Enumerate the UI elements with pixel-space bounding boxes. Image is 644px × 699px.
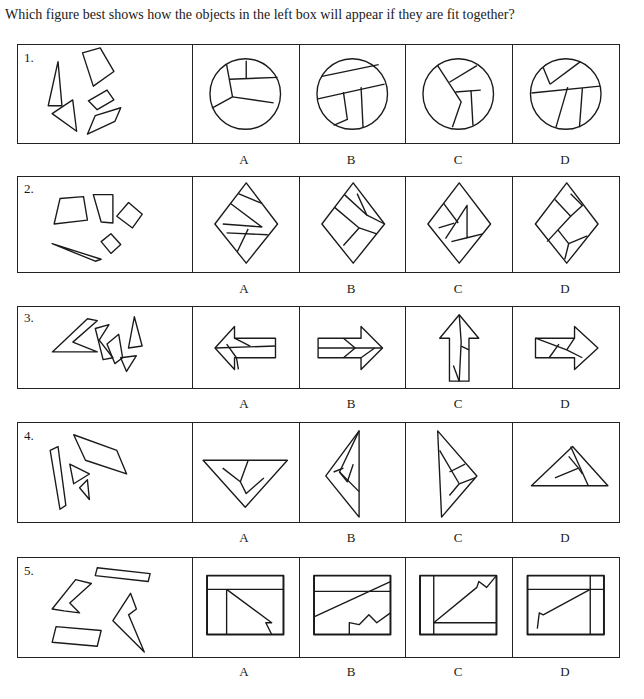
option-label: D [555,152,575,168]
option-b[interactable] [300,423,406,522]
question-prompt: Which figure best shows how the objects … [5,7,515,23]
option-figure [193,558,298,657]
option-label: B [341,152,361,168]
option-label: C [448,396,468,412]
item-row-1 [17,44,620,144]
option-label: B [341,530,361,546]
item-row-4 [17,422,620,523]
option-label: C [448,664,468,680]
pieces-box [18,423,193,522]
option-figure [193,423,298,522]
option-label: B [341,281,361,297]
option-d[interactable] [513,45,619,143]
option-figure [406,307,511,388]
option-label: D [555,396,575,412]
option-a[interactable] [193,558,299,657]
option-figure [300,177,405,272]
option-figure [513,558,619,657]
option-label: B [341,396,361,412]
option-label: D [555,281,575,297]
option-label: A [234,281,254,297]
option-c[interactable] [406,558,512,657]
item-row-2 [17,176,620,273]
puzzle-pieces-figure [18,177,192,272]
option-label: A [234,396,254,412]
option-a[interactable] [193,45,299,143]
option-label: A [234,152,254,168]
pieces-box [18,307,193,388]
option-a[interactable] [193,307,299,388]
option-b[interactable] [300,177,406,272]
option-figure [406,45,511,143]
option-c[interactable] [406,423,512,522]
option-c[interactable] [406,177,512,272]
option-d[interactable] [513,307,619,388]
pieces-box [18,558,193,657]
option-figure [300,423,405,522]
option-figure [513,45,619,143]
item-row-5 [17,557,620,658]
puzzle-pieces-figure [18,307,192,388]
option-figure [300,558,405,657]
option-figure [406,177,511,272]
puzzle-pieces-figure [18,423,192,522]
option-figure [300,307,405,388]
option-label: A [234,664,254,680]
option-c[interactable] [406,45,512,143]
option-d[interactable] [513,177,619,272]
option-figure [513,423,619,522]
option-figure [513,307,619,388]
option-b[interactable] [300,45,406,143]
option-a[interactable] [193,423,299,522]
item-row-3 [17,306,620,389]
option-label: B [341,664,361,680]
option-label: C [448,530,468,546]
option-figure [193,307,298,388]
option-b[interactable] [300,307,406,388]
option-figure [193,45,298,143]
option-d[interactable] [513,558,619,657]
option-figure [300,45,405,143]
option-c[interactable] [406,307,512,388]
option-label: A [234,530,254,546]
option-d[interactable] [513,423,619,522]
puzzle-pieces-figure [18,558,192,657]
option-figure [406,423,511,522]
option-label: D [555,664,575,680]
option-a[interactable] [193,177,299,272]
option-figure [513,177,619,272]
option-label: D [555,530,575,546]
option-label: C [448,152,468,168]
option-b[interactable] [300,558,406,657]
option-label: C [448,281,468,297]
option-figure [193,177,298,272]
pieces-box [18,45,193,143]
pieces-box [18,177,193,272]
puzzle-pieces-figure [18,45,192,143]
option-figure [406,558,511,657]
